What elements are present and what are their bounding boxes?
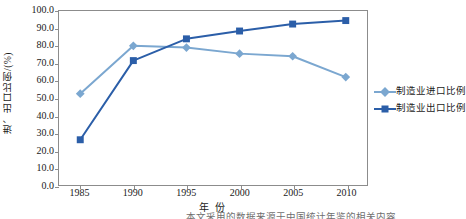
y-tick-label: 50.0 <box>37 93 55 103</box>
legend-item[interactable]: 制造业出口比例 <box>374 100 446 117</box>
x-tick-label: 2010 <box>337 188 357 198</box>
y-tick-mark <box>55 152 59 153</box>
y-tick-label: 70.0 <box>37 58 55 68</box>
data-point-marker <box>288 52 297 61</box>
data-point-marker <box>289 21 296 28</box>
data-point-marker <box>341 73 350 82</box>
y-tick-label: 20.0 <box>37 146 55 156</box>
y-tick-label: 100.0 <box>32 5 55 15</box>
y-tick-mark <box>55 117 59 118</box>
data-point-marker <box>235 49 244 58</box>
y-tick-mark <box>55 81 59 82</box>
y-tick-label: 30.0 <box>37 128 55 138</box>
y-axis-tick-labels: 0.010.020.030.040.050.060.070.080.090.01… <box>16 0 56 186</box>
x-tick-label: 1985 <box>69 188 89 198</box>
series-canvas <box>59 11 367 185</box>
data-point-marker <box>130 57 137 64</box>
y-tick-label: 0.0 <box>42 181 55 191</box>
y-tick-mark <box>55 64 59 65</box>
y-tick-label: 60.0 <box>37 75 55 85</box>
y-tick-mark <box>55 11 59 12</box>
y-tick-label: 40.0 <box>37 111 55 121</box>
data-point-marker <box>183 35 190 42</box>
x-tick-label: 1995 <box>176 188 196 198</box>
y-tick-mark <box>55 169 59 170</box>
x-tick-label: 1990 <box>123 188 143 198</box>
legend-label: 制造业出口比例 <box>396 104 466 114</box>
series-line <box>80 46 346 94</box>
y-tick-label: 80.0 <box>37 40 55 50</box>
data-point-marker <box>77 136 84 143</box>
legend-label: 制造业进口比例 <box>396 87 466 97</box>
y-axis-title-text: 进、出口比例/(%) <box>4 52 14 134</box>
x-tick-label: 2000 <box>230 188 250 198</box>
chart-legend: 制造业进口比例制造业出口比例 <box>374 83 446 117</box>
y-tick-label: 90.0 <box>37 23 55 33</box>
legend-diamond-icon <box>374 86 396 98</box>
clipped-caption-text: 本文采用的数据来源于中国统计年鉴的相关内容 <box>186 212 396 219</box>
legend-square-icon <box>374 103 396 115</box>
y-tick-mark <box>55 99 59 100</box>
data-point-marker <box>182 43 191 52</box>
clipped-caption: 本文采用的数据来源于中国统计年鉴的相关内容 <box>0 212 446 219</box>
series-line <box>80 21 346 140</box>
y-tick-mark <box>55 29 59 30</box>
x-tick-label: 2005 <box>283 188 303 198</box>
y-tick-mark <box>55 134 59 135</box>
y-tick-mark <box>55 46 59 47</box>
data-point-marker <box>236 28 243 35</box>
legend-item[interactable]: 制造业进口比例 <box>374 83 446 100</box>
data-point-marker <box>342 17 349 24</box>
y-tick-label: 10.0 <box>37 163 55 173</box>
plot-area <box>58 10 368 186</box>
